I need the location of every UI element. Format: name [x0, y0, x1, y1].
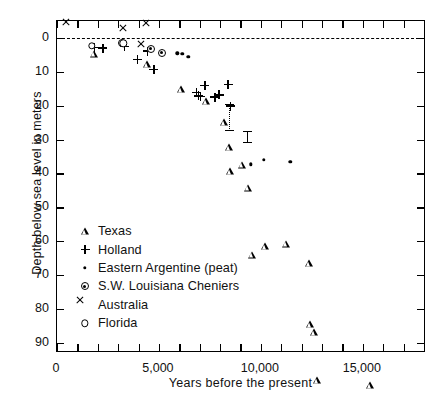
x-axis-tick: [363, 344, 364, 351]
open-triangle-marker: [225, 144, 233, 151]
x-marker: [141, 45, 150, 54]
x-tick-label: 15,000: [343, 361, 381, 375]
y-axis-tick: [57, 106, 64, 107]
y-axis-tick: [57, 72, 64, 73]
x-axis-tick: [200, 21, 201, 28]
y-axis-tick: [417, 241, 424, 242]
x-axis-tick: [98, 344, 99, 351]
x-axis-tick: [139, 21, 140, 28]
x-axis-tick: [139, 344, 140, 351]
y-axis-tick: [57, 173, 64, 174]
dot-marker: [262, 158, 265, 161]
series-texas: [57, 21, 424, 147]
y-axis-tick: [417, 343, 424, 344]
open-circle-marker: [81, 319, 88, 326]
y-axis-tick: [417, 106, 424, 107]
x-axis-tick: [424, 21, 425, 28]
error-bar-cap: [243, 131, 252, 132]
legend-label: Texas: [98, 224, 132, 238]
x-axis-tick: [383, 344, 384, 351]
x-axis-tick: [77, 21, 78, 28]
y-axis-tick: [57, 343, 64, 344]
x-axis-tick: [404, 21, 405, 28]
open-triangle-marker: [306, 321, 314, 328]
x-axis-tick: [424, 344, 425, 351]
x-axis-tick: [404, 344, 405, 351]
x-axis-tick: [98, 21, 99, 28]
x-axis-tick: [281, 21, 282, 28]
y-tick-label: 40: [35, 165, 49, 179]
legend-item-eastern-argentine-peat[interactable]: Eastern Argentine (peat): [78, 259, 239, 277]
y-tick-label: 0: [42, 30, 49, 44]
x-marker: [80, 300, 89, 309]
y-tick-label: 90: [35, 335, 49, 349]
legend-item-s-w-louisiana-cheniers[interactable]: S.W. Louisiana Cheniers: [78, 277, 239, 295]
legend-label: Florida: [98, 316, 137, 330]
legend-item-florida[interactable]: Florida: [78, 314, 239, 332]
legend-swatch: [78, 222, 98, 240]
legend-item-holland[interactable]: Holland: [78, 240, 239, 258]
error-bar-cap: [243, 142, 252, 143]
x-axis-tick: [179, 344, 180, 351]
x-axis-tick: [261, 21, 262, 28]
open-triangle-marker: [282, 240, 290, 247]
x-axis-tick: [159, 21, 160, 28]
x-axis-tick: [322, 344, 323, 351]
x-axis-tick: [159, 344, 160, 351]
x-tick-label: 0: [53, 361, 60, 375]
x-axis-tick: [322, 21, 323, 28]
y-axis-tick: [417, 140, 424, 141]
y-tick-label: 50: [35, 199, 49, 213]
open-triangle-marker: [143, 61, 151, 68]
error-bar-cap: [225, 130, 234, 131]
y-axis-tick: [57, 140, 64, 141]
y-axis-tick: [57, 241, 64, 242]
x-axis-tick: [342, 344, 343, 351]
x-marker: [66, 22, 75, 31]
y-tick-label: 10: [35, 64, 49, 78]
y-tick-label: 30: [35, 132, 49, 146]
x-axis-tick: [77, 344, 78, 351]
open-triangle-marker: [366, 382, 374, 389]
y-axis-tick: [417, 309, 424, 310]
x-axis-tick: [302, 344, 303, 351]
legend-item-australia[interactable]: Australia: [78, 296, 239, 314]
legend-swatch: [78, 277, 98, 295]
x-tick-label: 5,000: [142, 361, 173, 375]
x-marker: [123, 28, 132, 37]
open-triangle-marker: [261, 243, 269, 250]
legend-swatch: [78, 259, 98, 277]
x-axis-tick: [302, 21, 303, 28]
x-axis-tick: [57, 21, 58, 28]
y-axis-tick: [417, 275, 424, 276]
open-triangle-marker: [244, 184, 252, 191]
open-triangle-marker: [238, 161, 246, 168]
open-triangle-marker: [248, 251, 256, 258]
data-points: [57, 21, 424, 147]
y-axis-tick: [417, 72, 424, 73]
dot-marker: [289, 160, 292, 163]
open-triangle-marker: [81, 228, 89, 235]
x-axis-tick: [342, 21, 343, 28]
y-tick-label: 20: [35, 98, 49, 112]
dot-marker: [83, 266, 86, 269]
open-triangle-marker: [310, 329, 318, 336]
open-triangle-marker: [305, 259, 313, 266]
circled-dot-marker: [81, 282, 89, 290]
legend-item-texas[interactable]: Texas: [78, 222, 239, 240]
open-triangle-marker: [220, 118, 228, 125]
x-axis-tick: [200, 344, 201, 351]
y-axis-tick: [57, 207, 64, 208]
x-axis-tick: [240, 344, 241, 351]
datum-dashed-line: [57, 38, 424, 39]
x-axis-tick: [383, 21, 384, 28]
legend-label: Holland: [98, 243, 142, 257]
legend-swatch: [78, 314, 98, 332]
legend-label: Australia: [98, 298, 148, 312]
legend-swatch: [78, 296, 98, 314]
x-axis-tick: [118, 344, 119, 351]
y-tick-label: 60: [35, 233, 49, 247]
x-axis-tick: [281, 344, 282, 351]
x-axis-tick: [57, 344, 58, 351]
x-axis-tick: [179, 21, 180, 28]
